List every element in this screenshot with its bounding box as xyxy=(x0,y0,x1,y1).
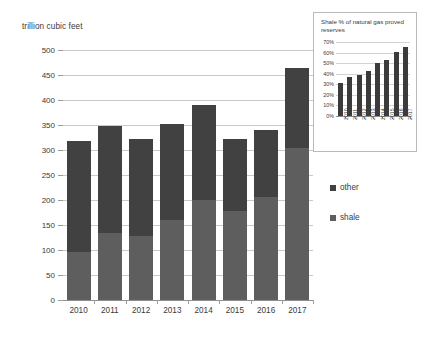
bar-segment-shale xyxy=(129,236,153,301)
x-tick-mark xyxy=(126,300,127,304)
bar-segment-other xyxy=(223,139,247,212)
bar-segment-shale xyxy=(192,200,216,300)
bar-segment-shale xyxy=(98,233,122,301)
bar-segment-other xyxy=(254,130,278,197)
bar-segment-other xyxy=(160,124,184,221)
y-axis-tick-label: 450 xyxy=(21,71,55,80)
inset-y-axis-tick-label: 30% xyxy=(315,81,334,87)
y-axis-tick-label: 250 xyxy=(21,171,55,180)
bar-group[interactable] xyxy=(254,50,278,300)
y-axis-tick-label: 0 xyxy=(21,296,55,305)
inset-y-axis-tick-label: 10% xyxy=(315,102,334,108)
inset-y-axis-tick-label: 40% xyxy=(315,71,334,77)
legend-label-shale: shale xyxy=(340,213,360,222)
inset-y-axis-tick-label: 50% xyxy=(315,60,334,66)
bar-group[interactable] xyxy=(192,50,216,300)
x-tick-mark xyxy=(94,300,95,304)
y-axis-tick-label: 50 xyxy=(21,271,55,280)
x-tick-mark xyxy=(188,300,189,304)
bar-segment-other xyxy=(129,139,153,236)
inset-y-axis-tick-label: 0% xyxy=(315,113,334,119)
x-axis-tick-label: 2017 xyxy=(277,306,317,315)
x-tick-mark xyxy=(219,300,220,304)
legend-label-other: other xyxy=(340,183,359,192)
y-axis-tick-label: 150 xyxy=(21,221,55,230)
inset-bars-layer xyxy=(336,42,410,116)
inset-bar[interactable] xyxy=(403,47,408,116)
y-axis-tick-label: 300 xyxy=(21,146,55,155)
inset-x-axis-tick-label: 2012 xyxy=(361,108,367,120)
bar-group[interactable] xyxy=(67,50,91,300)
legend-swatch-shale-icon xyxy=(330,215,336,221)
stacked-bar-chart: trillion cubic feet 50045040035030025020… xyxy=(0,0,425,337)
y-axis-title: trillion cubic feet xyxy=(22,22,83,31)
inset-y-axis-tick-label: 70% xyxy=(315,39,334,45)
bar-segment-shale xyxy=(67,252,91,301)
legend-swatch-other-icon xyxy=(330,185,336,191)
y-axis-tick-label: 400 xyxy=(21,96,55,105)
legend-item-other[interactable]: other xyxy=(330,183,360,192)
bar-group[interactable] xyxy=(223,50,247,300)
legend: other shale xyxy=(330,183,360,243)
inset-x-axis-tick-label: 2014 xyxy=(380,108,386,120)
bar-segment-shale xyxy=(254,197,278,301)
inset-x-axis-tick-label: 2010 xyxy=(343,108,349,120)
inset-x-axis-tick-label: 2013 xyxy=(370,108,376,120)
x-tick-mark xyxy=(251,300,252,304)
legend-item-shale[interactable]: shale xyxy=(330,213,360,222)
x-tick-mark xyxy=(157,300,158,304)
bar-group[interactable] xyxy=(160,50,184,300)
y-axis-tick-label: 200 xyxy=(21,196,55,205)
inset-chart: Shale % of natural gas proved reserves 7… xyxy=(313,12,417,152)
bar-group[interactable] xyxy=(129,50,153,300)
inset-x-axis-tick-label: 2015 xyxy=(389,108,395,120)
inset-y-axis-tick-label: 20% xyxy=(315,92,334,98)
x-tick-mark xyxy=(313,300,314,304)
inset-x-axis-tick-label: 2011 xyxy=(352,109,358,120)
y-axis-tick-label: 500 xyxy=(21,46,55,55)
inset-x-axis-tick-label: 2017 xyxy=(407,108,413,120)
bar-segment-other xyxy=(192,105,216,200)
x-tick-mark xyxy=(282,300,283,304)
bar-segment-other xyxy=(285,68,309,148)
bar-group[interactable] xyxy=(285,50,309,300)
inset-chart-title: Shale % of natural gas proved reserves xyxy=(321,18,413,34)
bar-segment-other xyxy=(98,126,122,233)
bar-segment-shale xyxy=(285,148,309,301)
inset-y-axis-tick-label: 60% xyxy=(315,50,334,56)
y-axis-tick-label: 350 xyxy=(21,121,55,130)
bar-segment-other xyxy=(67,141,91,252)
bar-segment-shale xyxy=(223,211,247,300)
y-axis-tick-label: 100 xyxy=(21,246,55,255)
bar-segment-shale xyxy=(160,220,184,300)
inset-bar[interactable] xyxy=(394,52,399,116)
main-bars-layer xyxy=(63,50,313,300)
inset-x-axis-tick-label: 2016 xyxy=(398,108,404,120)
bar-group[interactable] xyxy=(98,50,122,300)
